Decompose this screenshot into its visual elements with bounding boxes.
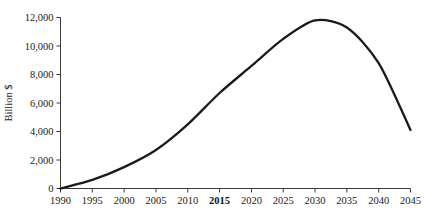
x-tick-label: 2030 [305,195,326,206]
y-tick-label: 8,000 [30,69,54,80]
x-tick-label: 2040 [368,195,389,206]
line-chart: 02,0004,0006,0008,00010,00012,0001990199… [0,0,425,217]
x-tick-label: 2020 [241,195,262,206]
y-tick-label: 2,000 [30,155,54,166]
x-tick-label: 1990 [50,195,71,206]
y-axis-title: Billion $ [3,84,14,121]
y-tick-label: 6,000 [30,98,54,109]
x-tick-label: 2005 [145,195,166,206]
x-tick-label: 2015 [209,195,230,206]
y-tick-label: 12,000 [25,12,54,23]
chart-figure: 02,0004,0006,0008,00010,00012,0001990199… [0,0,425,217]
data-series-line [61,20,411,189]
y-tick-label: 10,000 [25,41,54,52]
chart-axes [61,18,411,189]
x-tick-label: 2045 [400,195,421,206]
x-tick-label: 2000 [114,195,135,206]
x-tick-label: 2025 [273,195,294,206]
x-tick-label: 2035 [336,195,357,206]
x-tick-label: 2010 [177,195,198,206]
x-tick-label: 1995 [82,195,103,206]
y-tick-label: 4,000 [30,126,54,137]
y-tick-label: 0 [48,183,53,194]
